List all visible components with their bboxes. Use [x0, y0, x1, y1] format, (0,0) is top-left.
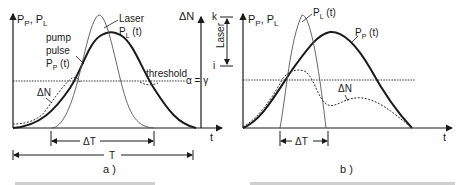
panel-b-caption: b ) [340, 163, 353, 175]
laser-transition-label: Laser [215, 22, 226, 48]
panel-a-laser-label: Laser [119, 13, 145, 24]
cut-off-caption-line-2 [250, 182, 455, 185]
level-i-label: i [213, 60, 215, 71]
panel-b-delta-n-curve [243, 70, 412, 128]
panel-a: PP,PL Laser PL (t) pump pulse PP (t) thr… [13, 10, 233, 175]
panel-b-delta-n-label: ΔN [338, 83, 352, 94]
panel-a-delta-n-leader [46, 98, 52, 103]
panel-a-pump-label-2: pulse [46, 45, 70, 56]
panel-a-delta-n-curve-tail [140, 82, 158, 85]
panel-a-x-axis-label: t [210, 131, 213, 143]
panel-b-pl-label: PL (t) [313, 7, 336, 20]
level-k-label: k [212, 11, 218, 22]
panel-b-pp-label: PP (t) [355, 27, 379, 40]
panel-a-delta-n-label: ΔN [37, 87, 51, 98]
panel-a-threshold-label: threshold [146, 68, 187, 79]
panel-b-y-axis-label: PP,PL [248, 13, 279, 28]
panel-a-caption: a ) [103, 163, 116, 175]
panel-a-delta-n-curve [13, 77, 80, 124]
panel-b: PP,PL PL (t) PP (t) ΔN t ΔT b ) [243, 7, 452, 175]
panel-b-delta-t-label: ΔT [295, 136, 308, 147]
panel-b-laser-curve [280, 15, 326, 128]
laser-pumping-diagram: PP,PL Laser PL (t) pump pulse PP (t) thr… [0, 0, 460, 185]
panel-b-x-axis-label: t [443, 131, 446, 143]
panel-a-threshold-condition: α = γ [186, 75, 208, 86]
panel-a-pump-label-1: pump [46, 32, 71, 43]
panel-a-pump-pp-label: PP (t) [46, 58, 70, 71]
cut-off-caption-line [15, 182, 155, 185]
panel-a-y-axis-label: PP,PL [17, 13, 48, 28]
panel-a-delta-n-axis-label: ΔN [179, 10, 194, 22]
panel-a-delta-t-label: ΔT [83, 136, 96, 147]
panel-a-pump-pulse-curve [13, 32, 196, 128]
panel-a-t-label: T [109, 150, 115, 161]
